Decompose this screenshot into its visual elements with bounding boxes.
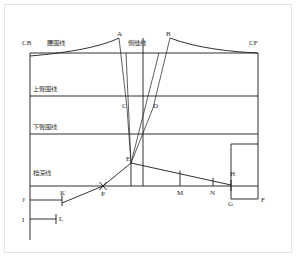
point-label-c: C bbox=[122, 102, 127, 110]
point-label-m: M bbox=[177, 189, 184, 197]
line-p-to-k bbox=[62, 186, 103, 203]
dart-right-outer bbox=[131, 38, 170, 163]
line-e-to-h bbox=[131, 163, 231, 185]
point-label-i: I bbox=[22, 216, 25, 224]
point-label-f: F bbox=[261, 196, 265, 204]
label-side-seam: 侧缝线 bbox=[128, 39, 146, 47]
label-cb: CB bbox=[22, 39, 32, 47]
label-cf: CF bbox=[249, 39, 258, 47]
point-label-a: A bbox=[117, 30, 122, 38]
point-label-group: A B C D E H J K P M N G F I L bbox=[22, 30, 265, 224]
guide-label-group: CB 腰围线 侧缝线 CF 上臀围线 下臀围线 档深线 bbox=[22, 39, 258, 177]
point-label-d: D bbox=[153, 102, 158, 110]
pattern-diagram: CB 腰围线 侧缝线 CF 上臀围线 下臀围线 档深线 A B C D E H … bbox=[0, 0, 296, 257]
point-label-l: L bbox=[59, 215, 63, 223]
point-label-p: P bbox=[101, 190, 105, 198]
label-lower-hip: 下臀围线 bbox=[33, 123, 57, 131]
dart-left-outer bbox=[119, 38, 131, 163]
tick-marks bbox=[56, 171, 231, 225]
point-label-h: H bbox=[230, 170, 235, 178]
point-label-e: E bbox=[126, 155, 130, 163]
point-label-k: K bbox=[60, 189, 65, 197]
point-label-g: G bbox=[228, 200, 233, 208]
waist-curve-front bbox=[170, 38, 258, 53]
label-upper-hip: 上臀围线 bbox=[33, 85, 57, 93]
label-waistline: 腰围线 bbox=[47, 39, 65, 47]
crotch-construction bbox=[62, 163, 231, 203]
point-label-j: J bbox=[22, 196, 25, 204]
point-label-b: B bbox=[166, 30, 171, 38]
dart-lines bbox=[119, 38, 170, 163]
line-e-to-p bbox=[103, 163, 131, 186]
lower-left-measurements bbox=[30, 186, 62, 240]
point-label-n: N bbox=[210, 189, 215, 197]
label-crotch: 档深线 bbox=[33, 169, 51, 177]
horizontal-guides bbox=[30, 96, 258, 134]
pattern-drawing-canvas: CB 腰围线 侧缝线 CF 上臀围线 下臀围线 档深线 A B C D E H … bbox=[0, 0, 296, 257]
